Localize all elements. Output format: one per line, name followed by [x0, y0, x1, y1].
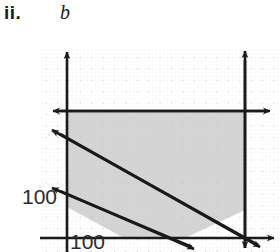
graph-svg [0, 0, 280, 252]
shaded-region-layer [67, 111, 245, 238]
vertical-axis-label: b [60, 2, 70, 22]
feasible-region-grid-overlay [67, 111, 245, 238]
y-intercept-tick-label: 100 [22, 186, 57, 207]
x-intercept-tick-label: 100 [70, 231, 105, 252]
part-label: ii. [4, 3, 21, 22]
figure-canvas: ii. b 100 100 [0, 0, 280, 252]
